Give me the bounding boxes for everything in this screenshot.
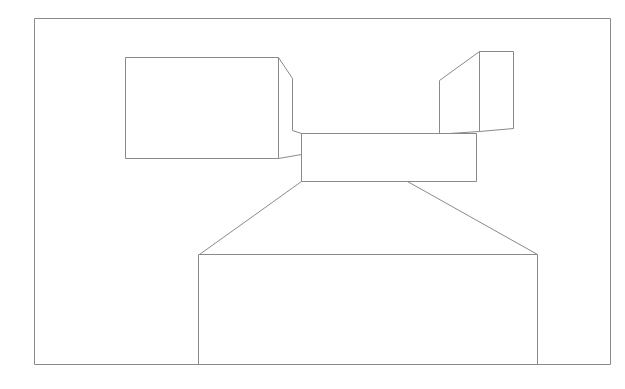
wireframe-svg xyxy=(0,0,625,389)
background xyxy=(0,0,625,389)
wireframe-diagram xyxy=(0,0,625,389)
